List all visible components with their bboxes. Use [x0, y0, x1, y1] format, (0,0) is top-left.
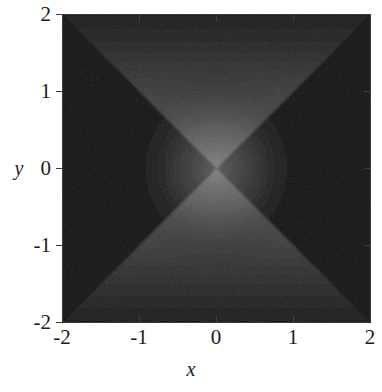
- x-tick-bottom-0: [216, 316, 217, 323]
- y-tick-left-0: [56, 168, 63, 169]
- y-tick-right-1: [364, 91, 371, 92]
- x-tick-bottom--1: [139, 316, 140, 323]
- y-axis-title: y: [8, 157, 30, 180]
- x-tick-top-1: [293, 15, 294, 22]
- x-tick-bottom-1: [293, 316, 294, 323]
- y-tick-label--1: -1: [11, 235, 51, 256]
- x-tick-top-2: [370, 15, 371, 22]
- y-tick-left-1: [56, 91, 63, 92]
- y-tick-right-0: [364, 168, 371, 169]
- density-plot-figure: -2 -1 0 1 2 2 1 0 -1 -2 x y: [0, 0, 382, 392]
- plot-frame: [62, 14, 371, 323]
- y-tick-right-2: [364, 14, 371, 15]
- y-tick-left--2: [56, 322, 63, 323]
- heatmap-raster: [63, 15, 370, 322]
- y-tick-left--1: [56, 245, 63, 246]
- y-tick-left-2: [56, 14, 63, 15]
- y-tick-right--2: [364, 322, 371, 323]
- y-tick-label-1: 1: [11, 81, 51, 102]
- y-tick-label-2: 2: [11, 4, 51, 25]
- x-axis-title: x: [0, 358, 382, 381]
- x-tick-label-0: 0: [196, 327, 236, 348]
- x-tick-label-1: 1: [273, 327, 313, 348]
- x-tick-label-2: 2: [350, 327, 382, 348]
- x-tick-top-0: [216, 15, 217, 22]
- y-tick-right--1: [364, 245, 371, 246]
- y-tick-label--2: -2: [11, 312, 51, 333]
- x-tick-label--1: -1: [119, 327, 159, 348]
- x-tick-top--2: [62, 15, 63, 22]
- x-tick-top--1: [139, 15, 140, 22]
